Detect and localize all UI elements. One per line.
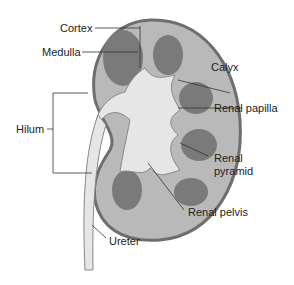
label-cortex: Cortex (60, 22, 92, 34)
pyramid (112, 170, 142, 210)
label-renal-pyramid-2: pyramid (214, 165, 253, 177)
label-hilum: Hilum (16, 123, 44, 135)
label-calyx: Calyx (211, 61, 239, 73)
label-medulla: Medulla (42, 46, 81, 58)
pyramid (179, 82, 213, 114)
kidney-diagram (0, 0, 294, 285)
label-renal-pyramid-1: Renal (214, 152, 243, 164)
pyramid (181, 129, 217, 161)
pyramid (174, 178, 208, 206)
label-renal-pelvis: Renal pelvis (188, 206, 248, 218)
pyramid (153, 35, 183, 75)
label-renal-papilla: Renal papilla (214, 102, 278, 114)
label-ureter: Ureter (109, 235, 140, 247)
